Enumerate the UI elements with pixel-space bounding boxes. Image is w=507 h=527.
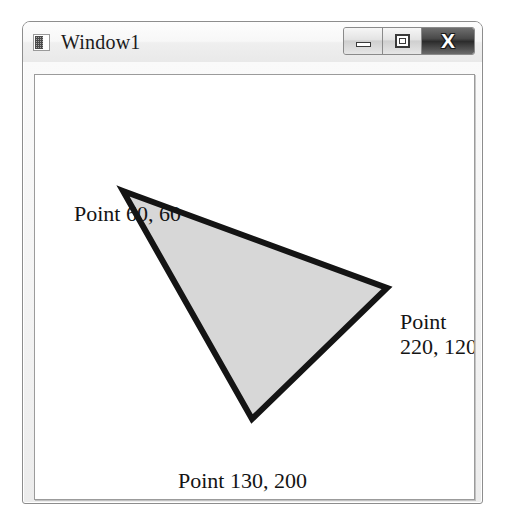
vertex-label-a: Point 60, 60 xyxy=(74,202,181,227)
close-button[interactable]: X xyxy=(422,28,474,54)
minimize-icon xyxy=(356,42,371,47)
window-client-area: Point 60, 60 Point220, 120 Point 130, 20… xyxy=(34,74,475,500)
caption-button-group: X xyxy=(343,27,475,55)
vertex-label-b-line1: Point xyxy=(400,309,446,334)
maximize-button[interactable] xyxy=(383,28,422,54)
drawing-canvas xyxy=(35,75,475,500)
window-app-icon[interactable] xyxy=(33,34,50,51)
close-icon: X xyxy=(441,30,455,51)
maximize-icon xyxy=(395,34,410,48)
window-title: Window1 xyxy=(61,31,140,54)
minimize-button[interactable] xyxy=(344,28,383,54)
vertex-label-b: Point220, 120 xyxy=(400,310,475,359)
application-window: Window1 X Point 60, 60 Point220, 120 Poi… xyxy=(22,21,483,504)
vertex-label-b-line2: 220, 120 xyxy=(400,334,475,359)
title-bar[interactable]: Window1 X xyxy=(23,22,482,62)
vertex-label-c: Point 130, 200 xyxy=(178,469,307,494)
